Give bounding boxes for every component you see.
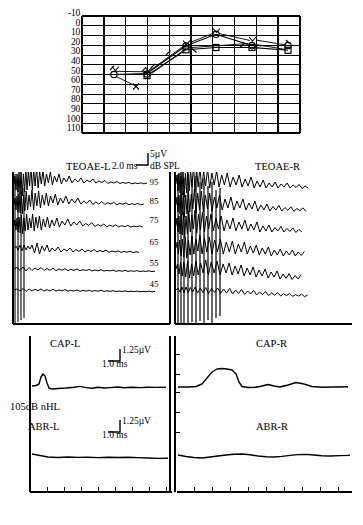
symbol-bracket-right <box>249 37 256 41</box>
abr-left-trace <box>32 454 168 458</box>
audiogram-curves <box>114 33 288 87</box>
cap-abr-frames <box>30 336 352 492</box>
teoae-trace-45 <box>14 289 155 292</box>
amplitude-axis-ticks <box>175 354 180 432</box>
teoae-panel: TEOAE-L TEOAE-R 5µV 2.0 ms dB SPL 95 85 … <box>0 148 363 330</box>
teoae-trace-55 <box>176 260 301 280</box>
cap-right-trace <box>178 369 348 388</box>
cap-left-trace <box>32 374 166 389</box>
teoae-right-traces <box>176 165 308 324</box>
teoae-traces <box>0 148 363 330</box>
abr-right-trace <box>178 454 350 458</box>
teoae-trace-95 <box>14 166 147 196</box>
teoae-trace-75 <box>176 210 302 237</box>
teoae-trace-85 <box>14 190 144 214</box>
symbol-bracket-left <box>166 51 171 56</box>
figure-root: -10 0 10 20 30 40 50 60 70 80 90 100 110 <box>0 0 363 525</box>
teoae-trace-75 <box>14 214 143 234</box>
cap-abr-traces <box>0 330 363 525</box>
audiogram-plot <box>0 0 363 148</box>
audiogram-panel: -10 0 10 20 30 40 50 60 70 80 90 100 110 <box>0 0 363 148</box>
audiogram-symbols <box>110 29 291 90</box>
teoae-left-traces <box>14 166 155 324</box>
teoae-trace-55 <box>14 267 155 272</box>
time-axis-ticks <box>47 487 338 492</box>
teoae-trace-65 <box>14 243 139 254</box>
teoae-trace-65 <box>176 235 304 258</box>
cap-abr-panel: CAP-L CAP-R ABR-L ABR-R 105dB nHL 1.25µV… <box>0 330 363 525</box>
